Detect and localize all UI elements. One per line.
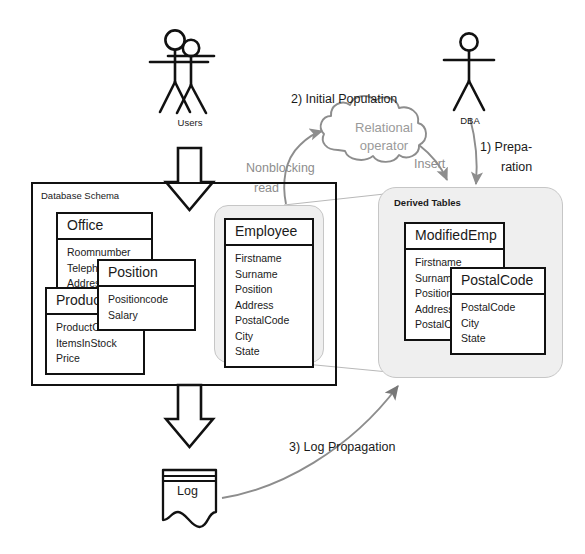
uml-attr: PostalCode — [235, 313, 303, 329]
actor-label-dba: DBA — [440, 115, 500, 126]
flow-label-initial-population: 2) Initial Population — [291, 92, 397, 108]
uml-title-office: Office — [58, 214, 151, 240]
uml-table-position[interactable]: Position Positioncode Salary — [97, 259, 196, 331]
uml-title-modifiedemp: ModifiedEmp — [406, 224, 503, 250]
uml-attr: Firstname — [235, 251, 303, 267]
preparation-arrow — [470, 118, 477, 184]
actor-label-users: Users — [160, 117, 220, 128]
uml-attr: State — [461, 331, 535, 347]
uml-attr: Price — [56, 351, 134, 367]
flow-label-preparation-line1: 1) Prepa- — [480, 140, 532, 156]
uml-attr: ItemsInStock — [56, 336, 134, 352]
uml-title-employee: Employee — [226, 220, 312, 246]
uml-attr: State — [235, 344, 303, 360]
cloud-label-line2: operator — [338, 138, 430, 154]
uml-title-position: Position — [99, 261, 194, 287]
flow-label-log-propagation: 3) Log Propagation — [289, 440, 395, 456]
log-label: Log — [177, 484, 198, 498]
uml-attr: Surname — [235, 267, 303, 283]
uml-attrs-postalcode: PostalCode City State — [452, 295, 544, 353]
uml-table-employee[interactable]: Employee Firstname Surname Position Addr… — [224, 218, 314, 368]
uml-title-postalcode: PostalCode — [452, 269, 544, 295]
flow-label-insert: Insert — [414, 157, 445, 173]
uml-attrs-position: Positioncode Salary — [99, 287, 194, 329]
uml-attr: Salary — [108, 308, 185, 324]
derived-tables-label: Derived Tables — [394, 197, 461, 208]
schema-to-log-arrow — [166, 385, 213, 447]
stick-figure-icon — [444, 33, 494, 110]
cloud-label-line1: Relational — [338, 120, 430, 136]
uml-table-postalcode[interactable]: PostalCode PostalCode City State — [450, 267, 546, 355]
log-shape — [163, 470, 216, 527]
flow-label-preparation-line2: ration — [501, 160, 532, 176]
uml-attr: City — [235, 329, 303, 345]
flow-label-nonblocking-line1: Nonblocking — [246, 161, 315, 177]
uml-attr: City — [461, 316, 535, 332]
uml-attr: Position — [235, 282, 303, 298]
uml-attr: PostalCode — [461, 300, 535, 316]
diagram-canvas: Users DBA 2) Initial Population Relation… — [0, 0, 585, 554]
uml-attrs-employee: Firstname Surname Position Address Posta… — [226, 246, 312, 366]
uml-attr: Positioncode — [108, 292, 185, 308]
uml-attr: Address — [235, 298, 303, 314]
database-schema-label: Database Schema — [41, 190, 119, 201]
stick-figure-pair-icon — [150, 30, 214, 113]
